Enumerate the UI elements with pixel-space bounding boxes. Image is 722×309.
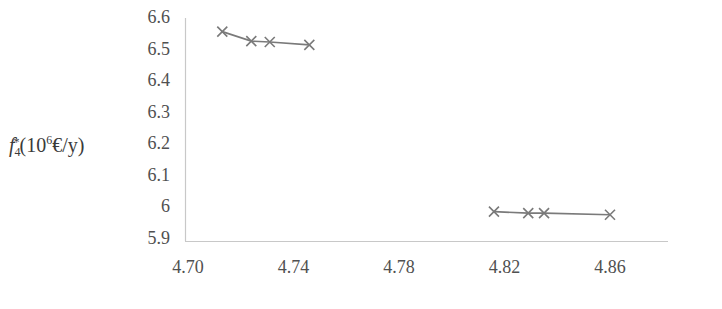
series-line — [494, 212, 610, 215]
series-lower-cluster — [489, 207, 615, 220]
series-upper-cluster — [217, 27, 314, 50]
plot-area — [0, 0, 722, 309]
x-marker-icon — [217, 27, 227, 37]
series-layer — [217, 27, 615, 220]
chart: f4*(106€/y) 6.66.56.46.36.26.165.9 4.704… — [0, 0, 722, 309]
